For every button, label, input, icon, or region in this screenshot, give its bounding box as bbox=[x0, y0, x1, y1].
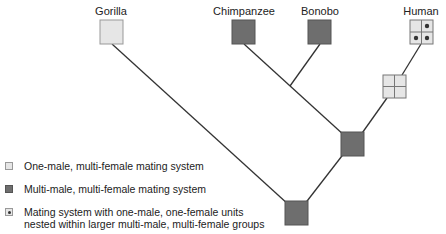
legend-item-one-male: One-male, multi-female mating system bbox=[5, 160, 204, 172]
dark-square-icon bbox=[5, 185, 13, 193]
light-square-icon bbox=[5, 162, 13, 170]
chimpanzee-state-box bbox=[232, 20, 255, 44]
legend-item-multi-male: Multi-male, multi-female mating system bbox=[5, 183, 206, 195]
ancestral-grid-box bbox=[383, 75, 406, 98]
taxon-label-chimpanzee: Chimpanzee bbox=[213, 5, 275, 17]
taxon-label-gorilla: Gorilla bbox=[95, 5, 127, 17]
bonobo-state-box bbox=[308, 20, 331, 44]
legend-item-nested: Mating system with one-male, one-female … bbox=[5, 206, 264, 230]
root-node-box bbox=[285, 201, 308, 225]
phylogeny-tree bbox=[0, 0, 446, 234]
ancestral-node-box bbox=[341, 132, 364, 156]
dotted-square-icon bbox=[5, 208, 13, 216]
taxon-label-human: Human bbox=[403, 5, 438, 17]
human-state-box bbox=[410, 20, 433, 44]
taxon-label-bonobo: Bonobo bbox=[301, 5, 339, 17]
gorilla-state-box bbox=[100, 20, 123, 44]
